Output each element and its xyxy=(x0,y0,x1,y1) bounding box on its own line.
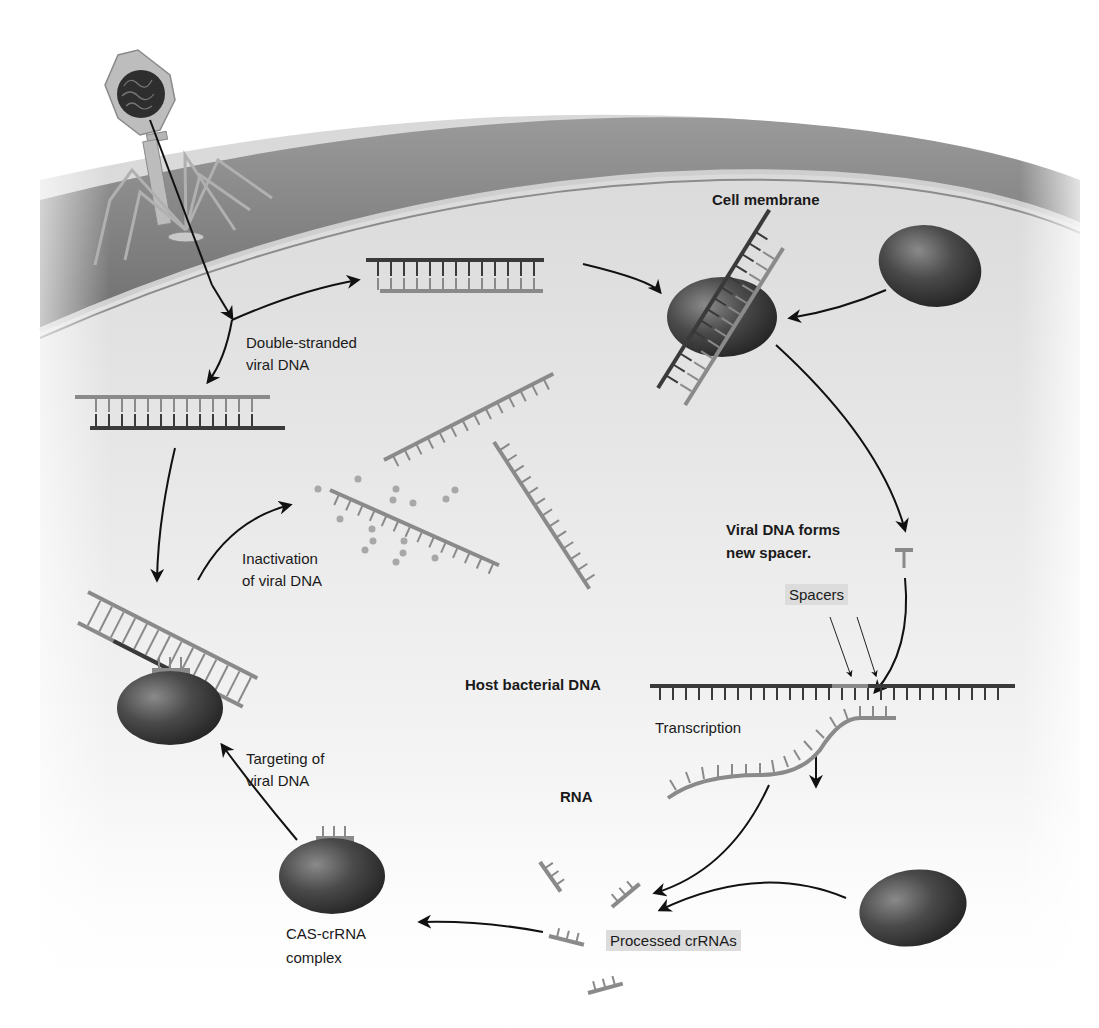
targeting-label-line1: Targeting of xyxy=(246,750,324,767)
new-spacer-label-line2: new spacer. xyxy=(726,544,811,561)
double-stranded-label-line2: viral DNA xyxy=(246,356,309,373)
cas-complex-label-line1: CAS-crRNA xyxy=(286,925,366,942)
crispr-diagram: Cell membrane Double-stranded viral DNA … xyxy=(0,0,1099,1028)
spacers-label: Spacers xyxy=(785,584,848,605)
cas-complex-label-line2: complex xyxy=(286,949,342,966)
host-dna-label: Host bacterial DNA xyxy=(465,676,601,693)
new-spacer-label-line1: Viral DNA forms xyxy=(726,521,840,538)
processed-crrnas-label: Processed crRNAs xyxy=(606,930,741,951)
cell-membrane-label: Cell membrane xyxy=(712,191,820,208)
rna-label: RNA xyxy=(560,788,593,805)
double-stranded-label-line1: Double-stranded xyxy=(246,334,357,351)
inactivation-label-line2: of viral DNA xyxy=(242,572,322,589)
targeting-label-line2: viral DNA xyxy=(246,772,309,789)
transcription-label: Transcription xyxy=(655,719,741,736)
inactivation-label-line1: Inactivation xyxy=(242,550,318,567)
